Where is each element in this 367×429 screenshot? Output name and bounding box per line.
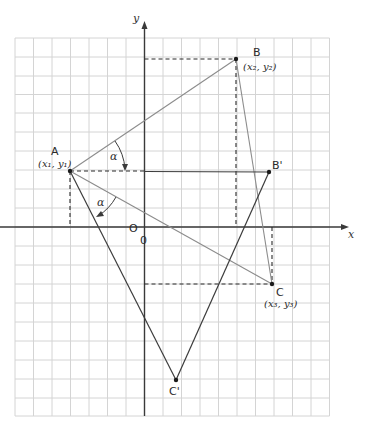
label-b-prime: B'	[272, 159, 283, 172]
x-axis-label: x	[348, 228, 355, 241]
angle-label-lower: α	[97, 196, 105, 209]
point-c-prime	[174, 378, 178, 382]
angle-markers: α α	[96, 141, 128, 217]
label-a-coords: (x₁, y₁)	[38, 158, 72, 169]
label-c-coords: (x₃, y₃)	[264, 298, 298, 309]
point-labels: A (x₁, y₁) B (x₂, y₂) C (x₃, y₃) B' C'	[38, 46, 298, 398]
label-c-prime: C'	[169, 385, 180, 398]
point-b-prime	[267, 170, 271, 174]
angle-label-upper: α	[110, 150, 118, 163]
label-b-coords: (x₂, y₂)	[243, 61, 277, 72]
point-b	[234, 57, 238, 61]
y-axis-arrow-icon	[142, 21, 148, 29]
label-a: A	[51, 145, 59, 158]
point-c	[270, 282, 274, 286]
origin-label-secondary: 0	[140, 234, 147, 247]
point-a	[68, 169, 72, 173]
y-axis-label: y	[132, 12, 140, 25]
rotation-diagram: x y O 0 α α	[0, 0, 367, 429]
origin-label: O	[129, 222, 138, 235]
label-b: B	[253, 46, 261, 59]
axes: x y O 0	[0, 12, 355, 416]
angle-arrow-lower-icon	[96, 211, 104, 217]
segment-ac-prime	[70, 171, 176, 380]
segment-ab-prime	[145, 172, 270, 173]
